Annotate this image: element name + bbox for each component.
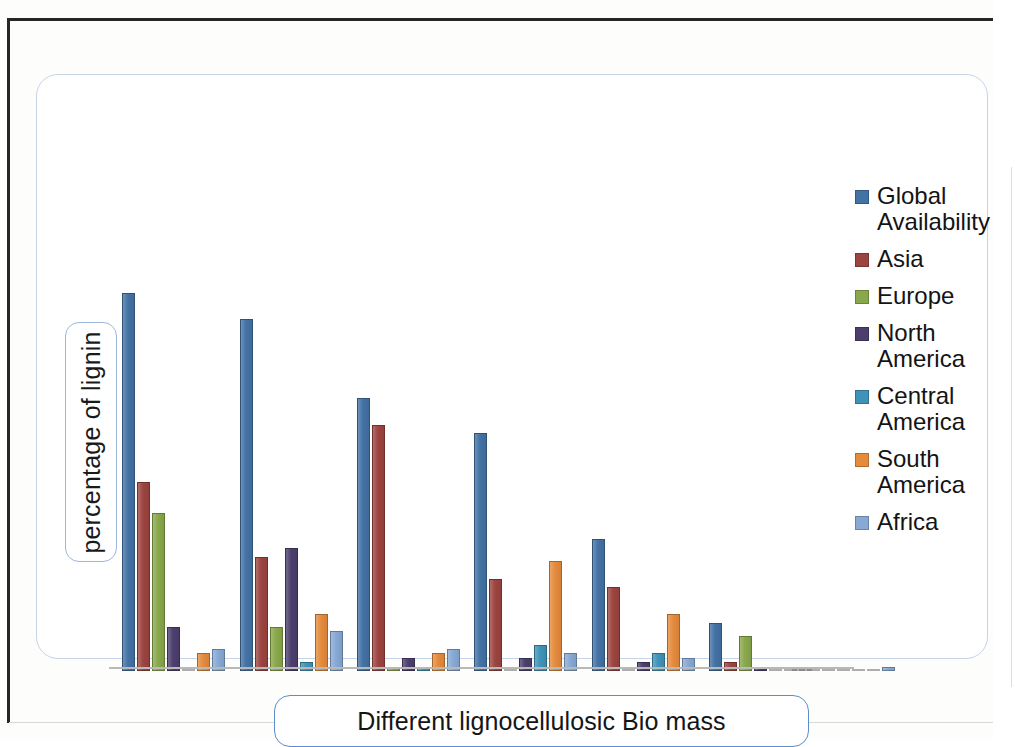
bar (822, 669, 835, 671)
legend-item[interactable]: Europe (855, 283, 1015, 309)
legend-item[interactable]: Global Availability (855, 183, 1015, 235)
bar (867, 669, 880, 671)
legend-label: Central America (877, 383, 965, 435)
bar (372, 425, 385, 671)
bar (315, 614, 328, 671)
legend-item[interactable]: South America (855, 446, 1015, 498)
legend-label: Asia (877, 246, 924, 272)
x-axis-line (109, 667, 854, 669)
x-axis-title-label: Different lignocellulosic Bio mass (357, 707, 725, 736)
page-border-left (7, 18, 10, 723)
bar-group (240, 159, 345, 671)
bar (270, 627, 283, 671)
bar (285, 548, 298, 671)
bar (739, 636, 752, 671)
legend-swatch-icon (855, 253, 869, 267)
legend-swatch-icon (855, 190, 869, 204)
legend-label: Europe (877, 283, 954, 309)
legend-item[interactable]: Central America (855, 383, 1015, 435)
legend-swatch-icon (855, 390, 869, 404)
bar (122, 293, 135, 671)
bar-group (122, 159, 227, 671)
bar (402, 658, 415, 671)
bar-group (474, 159, 579, 671)
bar (137, 482, 150, 671)
bar (807, 669, 820, 671)
bar (240, 319, 253, 671)
x-axis-title: Different lignocellulosic Bio mass (274, 695, 809, 747)
legend-item[interactable]: Africa (855, 509, 1015, 535)
y-axis-title-label: percentage of lignin (77, 331, 106, 553)
bar (504, 669, 517, 671)
legend-label: South America (877, 446, 965, 498)
bar (357, 398, 370, 671)
bar (489, 579, 502, 671)
bar (622, 669, 635, 671)
bar (182, 669, 195, 671)
bar (709, 623, 722, 671)
legend-swatch-icon (855, 453, 869, 467)
y-axis-title: percentage of lignin (65, 322, 117, 562)
bar (519, 658, 532, 671)
legend: Global AvailabilityAsiaEuropeNorth Ameri… (855, 183, 1015, 546)
bar (682, 658, 695, 671)
legend-item[interactable]: Asia (855, 246, 1015, 272)
bar (255, 557, 268, 671)
legend-swatch-icon (855, 327, 869, 341)
bar (330, 631, 343, 671)
plot-area (109, 159, 849, 671)
bar (769, 669, 782, 671)
bar (667, 614, 680, 671)
bar (167, 627, 180, 671)
bar (882, 667, 895, 671)
chart-card: percentage of lignin Different lignocell… (36, 74, 988, 659)
legend-item[interactable]: North America (855, 320, 1015, 372)
bar-group (592, 159, 697, 671)
legend-label: North America (877, 320, 965, 372)
legend-divider (1011, 167, 1012, 687)
bar-group (357, 159, 462, 671)
bar (792, 669, 805, 671)
bar (549, 561, 562, 671)
bar (474, 433, 487, 671)
legend-label: Global Availability (877, 183, 990, 235)
page-border-top (9, 18, 993, 21)
legend-swatch-icon (855, 290, 869, 304)
bar (852, 669, 865, 671)
bar (837, 669, 850, 671)
bar (592, 539, 605, 671)
legend-label: Africa (877, 509, 938, 535)
legend-swatch-icon (855, 516, 869, 530)
bar (152, 513, 165, 671)
bar (607, 587, 620, 671)
